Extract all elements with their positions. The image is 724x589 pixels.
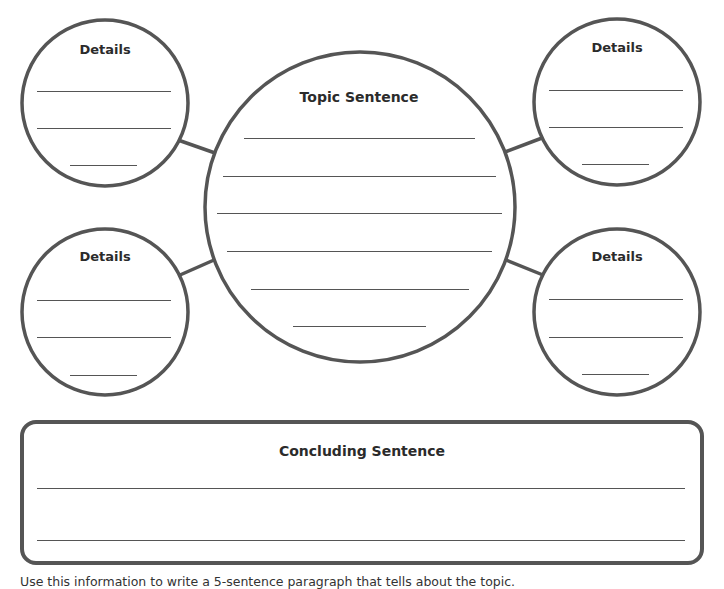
details-line-top-right-2[interactable]	[549, 127, 683, 128]
details-line-bottom-right-3[interactable]	[582, 374, 649, 375]
concluding-line-1[interactable]	[37, 488, 685, 489]
details-line-top-right-1[interactable]	[549, 90, 683, 91]
topic-line-6[interactable]	[293, 326, 426, 327]
details-line-top-left-2[interactable]	[37, 128, 171, 129]
details-line-top-left-3[interactable]	[70, 165, 137, 166]
details-line-bottom-left-2[interactable]	[37, 337, 171, 338]
topic-line-5[interactable]	[251, 289, 469, 290]
details-line-bottom-left-1[interactable]	[37, 300, 171, 301]
concluding-title: Concluding Sentence	[279, 443, 445, 459]
topic-line-4[interactable]	[227, 251, 492, 252]
footer-instructions: Use this information to write a 5-senten…	[20, 574, 515, 589]
topic-line-2[interactable]	[223, 176, 496, 177]
details-title-top-right: Details	[591, 40, 642, 55]
details-title-bottom-left: Details	[79, 249, 130, 264]
connector-bottom-right	[506, 260, 543, 275]
details-line-bottom-left-3[interactable]	[70, 375, 137, 376]
details-line-top-left-1[interactable]	[37, 91, 171, 92]
connector-top-left	[178, 140, 215, 153]
topic-line-3[interactable]	[217, 213, 502, 214]
topic-title: Topic Sentence	[300, 89, 419, 105]
connector-top-right	[505, 138, 542, 152]
concluding-line-2[interactable]	[37, 540, 685, 541]
connector-bottom-left	[180, 260, 214, 275]
topic-line-1[interactable]	[244, 138, 475, 139]
details-line-bottom-right-1[interactable]	[549, 299, 683, 300]
details-title-top-left: Details	[79, 42, 130, 57]
details-line-bottom-right-2[interactable]	[549, 337, 683, 338]
details-title-bottom-right: Details	[591, 249, 642, 264]
details-line-top-right-3[interactable]	[582, 164, 649, 165]
